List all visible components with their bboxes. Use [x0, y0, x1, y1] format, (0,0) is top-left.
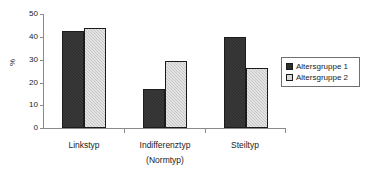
bar-indifferenztyp-altersgruppe-1 — [143, 89, 165, 128]
y-tick-label: 30 — [22, 56, 38, 64]
legend-entry-altersgruppe-2: Altersgruppe 2 — [286, 72, 356, 83]
y-tick-mark — [40, 128, 44, 129]
y-tick-label: 10 — [22, 101, 38, 109]
bar-linkstyp-altersgruppe-2 — [84, 28, 106, 128]
legend-entry-altersgruppe-1: Altersgruppe 1 — [286, 61, 356, 72]
x-category-label-linkstyp: Linkstyp — [44, 140, 124, 150]
x-category-label-indifferenztyp: Indifferenztyp — [125, 140, 205, 150]
y-tick-label: 40 — [22, 33, 38, 41]
x-tick-mark — [124, 129, 125, 133]
legend-entry-label: Altersgruppe 1 — [296, 62, 348, 71]
bar-linkstyp-altersgruppe-1 — [62, 31, 84, 128]
y-tick-label: 50 — [22, 10, 38, 18]
bar-steiltyp-altersgruppe-2 — [246, 68, 268, 128]
x-axis-sublabel-normtyp: (Normtyp) — [125, 155, 205, 165]
y-axis-title: % — [8, 59, 17, 66]
x-category-label-steiltyp: Steiltyp — [205, 140, 285, 150]
bar-steiltyp-altersgruppe-1 — [224, 37, 246, 128]
x-tick-mark — [285, 129, 286, 133]
legend: Altersgruppe 1 Altersgruppe 2 — [281, 57, 360, 87]
legend-swatch-icon — [286, 74, 293, 81]
x-tick-mark — [205, 129, 206, 133]
legend-entry-label: Altersgruppe 2 — [296, 73, 348, 82]
plot-area — [44, 14, 286, 128]
bar-indifferenztyp-altersgruppe-2 — [165, 61, 187, 128]
x-axis-line — [43, 128, 286, 129]
y-tick-label: 20 — [22, 79, 38, 87]
y-tick-label: 0 — [22, 124, 38, 132]
bar-chart: % 50 40 30 20 10 0 Linkstyp Indifferenzt… — [0, 0, 370, 175]
legend-swatch-icon — [286, 63, 293, 70]
